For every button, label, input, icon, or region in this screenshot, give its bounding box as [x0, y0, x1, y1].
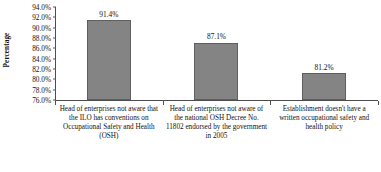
bar-group: 81.2% [270, 7, 378, 100]
x-axis-category-label: Head of enterprises not aware that the I… [55, 105, 163, 141]
bar[interactable] [87, 20, 131, 100]
y-axis-tick-mark [53, 58, 56, 59]
y-axis-tick-label: 88.0% [32, 34, 51, 43]
y-axis-tick-labels: 94.0%92.0%90.0%88.0%86.0%84.0%82.0%80.0%… [16, 7, 53, 100]
y-axis-tick-label: 90.0% [32, 23, 51, 32]
y-axis-tick-mark [53, 17, 56, 18]
y-axis-tick-mark [53, 38, 56, 39]
bar[interactable] [194, 43, 238, 100]
bar-group: 87.1% [163, 7, 271, 100]
y-axis-tick-mark [53, 7, 56, 8]
x-axis-category-label: Head of enterprises not aware of the nat… [163, 105, 271, 141]
y-axis-tick-label: 82.0% [32, 65, 51, 74]
bar-chart: Percentage 94.0%92.0%90.0%88.0%86.0%84.0… [0, 0, 381, 172]
bar-value-label: 81.2% [315, 63, 334, 72]
y-axis-tick-label: 94.0% [32, 3, 51, 12]
bar-value-label: 87.1% [207, 32, 226, 41]
y-axis-tick-label: 76.0% [32, 96, 51, 105]
bar[interactable] [302, 73, 346, 100]
y-axis-tick-label: 78.0% [32, 85, 51, 94]
x-axis-category-label: Establishment doesn't have a written occ… [270, 105, 378, 132]
bar-value-label: 91.4% [99, 10, 118, 19]
y-axis-tick-label: 80.0% [32, 75, 51, 84]
y-axis-tick-mark [53, 27, 56, 28]
y-axis-title: Percentage [0, 0, 14, 100]
y-axis-title-text: Percentage [3, 33, 11, 68]
x-axis-category-labels: Head of enterprises not aware that the I… [55, 105, 378, 169]
x-axis-tick-mark [378, 101, 379, 105]
y-axis-tick-mark [53, 69, 56, 70]
y-axis-tick-label: 92.0% [32, 13, 51, 22]
y-axis-tick-mark [53, 79, 56, 80]
y-axis-tick-label: 84.0% [32, 54, 51, 63]
y-axis-tick-label: 86.0% [32, 44, 51, 53]
y-axis-tick-mark [53, 89, 56, 90]
x-axis-tick-mark [163, 101, 164, 105]
plot-area: 91.4%87.1%81.2% [55, 7, 378, 100]
x-axis-tick-mark [270, 101, 271, 105]
y-axis-tick-mark [53, 48, 56, 49]
x-axis-tick-mark [55, 101, 56, 105]
bar-group: 91.4% [55, 7, 163, 100]
x-axis-line [55, 100, 378, 101]
